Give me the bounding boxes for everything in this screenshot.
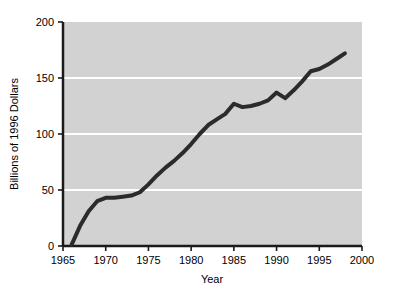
y-tick-label-0: 0	[48, 240, 54, 252]
y-tick-label-50: 50	[42, 184, 54, 196]
x-tick-label-1985: 1985	[222, 254, 246, 266]
x-tick-label-1980: 1980	[179, 254, 203, 266]
x-tick-label-1975: 1975	[136, 254, 160, 266]
x-tick-label-1970: 1970	[93, 254, 117, 266]
x-axis-tick-labels: 19651970197519801985199019952000	[51, 254, 374, 266]
y-axis-title: Billions of 1996 Dollars	[8, 78, 20, 190]
y-tick-label-100: 100	[36, 128, 54, 140]
x-tick-label-1990: 1990	[264, 254, 288, 266]
chart-figure: 19651970197519801985199019952000 0501001…	[0, 0, 398, 303]
x-tick-label-1995: 1995	[307, 254, 331, 266]
y-tick-label-200: 200	[36, 16, 54, 28]
x-tick-label-2000: 2000	[350, 254, 374, 266]
x-tick-label-1965: 1965	[51, 254, 75, 266]
line-chart: 19651970197519801985199019952000 0501001…	[0, 0, 398, 303]
y-tick-label-150: 150	[36, 72, 54, 84]
y-axis-tick-labels: 050100150200	[36, 16, 54, 252]
x-axis-title: Year	[201, 273, 224, 285]
